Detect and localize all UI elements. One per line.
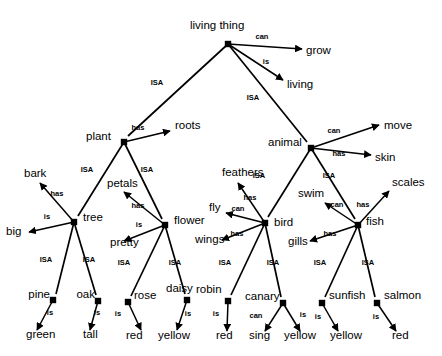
relation-label-fish-has-scales: has xyxy=(357,200,370,209)
concept-label-daisy[interactable]: daisy xyxy=(166,282,193,294)
node-dot-bird[interactable] xyxy=(262,220,268,226)
relation-label-robin-isa-bird: ISA xyxy=(219,258,232,267)
property-label-tall: tall xyxy=(83,328,98,340)
relation-label-flower-has-petals: has xyxy=(132,201,145,210)
labels-layer: canisISAISAhasISAISAcanhasISAISAhasisISA… xyxy=(6,19,425,341)
concept-label-salmon[interactable]: salmon xyxy=(384,289,421,301)
property-label-red-rose: red xyxy=(126,329,143,341)
edge-sunfish-is-yellow xyxy=(322,303,338,331)
property-label-petals: petals xyxy=(107,177,138,189)
edge-canary-can-sing xyxy=(265,303,283,331)
node-dot-fish[interactable] xyxy=(355,222,361,228)
property-label-red-salmon: red xyxy=(392,329,409,341)
relation-label-salmon-is-red: is xyxy=(373,312,379,321)
relation-label-tree-has-bark: has xyxy=(51,189,64,198)
relation-label-fish-has-gills: has xyxy=(324,229,337,238)
relation-label-canary-can-sing: can xyxy=(250,311,263,320)
concept-label-sunfish[interactable]: sunfish xyxy=(329,289,365,301)
node-dot-canary[interactable] xyxy=(280,300,286,306)
node-dot-robin[interactable] xyxy=(225,298,231,304)
property-label-grow: grow xyxy=(306,44,332,56)
property-label-scales: scales xyxy=(392,176,425,188)
node-dot-tree[interactable] xyxy=(71,219,77,225)
relation-label-rose-is-red: is xyxy=(115,309,121,318)
property-label-move: move xyxy=(384,119,412,131)
node-dot-plant[interactable] xyxy=(121,139,127,145)
property-label-red-robin: red xyxy=(216,329,233,341)
relation-label-tree-isa-plant: ISA xyxy=(81,165,94,174)
property-label-swim: swim xyxy=(298,187,324,199)
relation-label-fish-can-swim: can xyxy=(331,200,344,209)
edge-living-thing-can-grow xyxy=(228,44,302,49)
relation-label-flower-is-pretty: is xyxy=(136,220,142,229)
relation-label-tree-is-big: is xyxy=(44,212,50,221)
relation-label-plant-isa-living-thing: ISA xyxy=(151,78,164,87)
relation-label-fish-isa-animal: ISA xyxy=(323,171,336,180)
concept-label-plant[interactable]: plant xyxy=(86,130,112,142)
concept-label-flower[interactable]: flower xyxy=(174,214,205,226)
property-label-living: living xyxy=(287,78,313,90)
node-dot-pine[interactable] xyxy=(50,297,56,303)
relation-label-animal-can-move: can xyxy=(328,126,341,135)
property-label-bark: bark xyxy=(24,167,47,179)
property-label-yellow-sunfish: yellow xyxy=(330,329,363,341)
property-label-big: big xyxy=(6,225,21,237)
concept-label-bird[interactable]: bird xyxy=(274,216,293,228)
node-dot-flower[interactable] xyxy=(162,222,168,228)
concept-label-living-thing[interactable]: living thing xyxy=(190,19,244,31)
node-dot-oak[interactable] xyxy=(95,298,101,304)
relation-label-living-thing-can-grow: can xyxy=(256,32,269,41)
edge-canary-is-yellow xyxy=(283,303,300,331)
relation-label-daisy-is-yellow: is xyxy=(185,309,191,318)
property-label-fly: fly xyxy=(209,201,221,213)
edge-robin-is-red xyxy=(227,301,228,331)
relation-label-canary-isa-bird: ISA xyxy=(267,258,280,267)
node-dot-living-thing[interactable] xyxy=(225,41,231,47)
relation-label-salmon-isa-fish: ISA xyxy=(362,258,375,267)
node-dot-rose[interactable] xyxy=(125,299,131,305)
edge-pine-isa-tree xyxy=(56,222,74,294)
relation-label-bird-can-fly: can xyxy=(232,204,245,213)
relation-label-sunfish-isa-fish: ISA xyxy=(314,258,327,267)
concept-label-oak[interactable]: oak xyxy=(76,288,95,300)
relation-label-pine-isa-tree: ISA xyxy=(40,255,53,264)
property-label-yellow-canary: yellow xyxy=(284,329,317,341)
property-label-roots: roots xyxy=(175,119,201,131)
property-label-feathers: feathers xyxy=(222,166,264,178)
edge-living-thing-is-living xyxy=(228,44,283,80)
node-dot-daisy[interactable] xyxy=(184,297,190,303)
property-label-sing: sing xyxy=(249,329,270,341)
concept-label-robin[interactable]: robin xyxy=(196,283,222,295)
relation-label-bird-has-feathers: has xyxy=(244,193,257,202)
relation-label-rose-isa-flower: ISA xyxy=(118,258,131,267)
property-label-green: green xyxy=(26,328,55,340)
relation-label-canary-is-yellow: is xyxy=(300,310,306,319)
concept-label-animal[interactable]: animal xyxy=(268,136,302,148)
node-dot-animal[interactable] xyxy=(308,145,314,151)
relation-label-daisy-isa-flower: ISA xyxy=(169,258,182,267)
property-label-pretty: pretty xyxy=(110,236,139,248)
concept-label-pine[interactable]: pine xyxy=(28,288,50,300)
concept-label-fish[interactable]: fish xyxy=(366,215,384,227)
edge-flower-has-petals xyxy=(124,192,165,225)
node-dot-sunfish[interactable] xyxy=(319,300,325,306)
relation-label-animal-isa-living-thing: ISA xyxy=(247,93,260,102)
property-label-skin: skin xyxy=(375,151,395,163)
relation-label-flower-isa-plant: ISA xyxy=(141,165,154,174)
relation-label-plant-has-roots: has xyxy=(132,123,145,132)
node-dot-salmon[interactable] xyxy=(374,300,380,306)
relation-label-animal-has-skin: has xyxy=(333,149,346,158)
concept-label-tree[interactable]: tree xyxy=(83,211,103,223)
relation-label-oak-is-tall: is xyxy=(94,308,100,317)
relation-label-pine-is-green: is xyxy=(47,308,53,317)
edge-salmon-is-red xyxy=(377,303,396,331)
edge-tree-is-big xyxy=(29,222,74,232)
relation-label-living-thing-is-living: is xyxy=(263,57,269,66)
semantic-network-diagram: canisISAISAhasISAISAcanhasISAISAhasisISA… xyxy=(0,0,442,356)
relation-label-robin-is-red: is xyxy=(213,309,219,318)
concept-label-rose[interactable]: rose xyxy=(134,289,156,301)
property-label-gills: gills xyxy=(288,235,308,247)
relation-label-sunfish-is-yellow: is xyxy=(315,312,321,321)
concept-label-canary[interactable]: canary xyxy=(245,290,280,302)
edge-animal-can-move xyxy=(311,125,379,148)
